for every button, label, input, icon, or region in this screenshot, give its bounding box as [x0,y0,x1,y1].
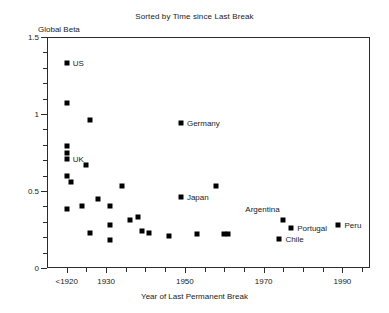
x-tick-mark [362,268,363,272]
data-point[interactable] [178,195,183,200]
data-point[interactable] [108,238,113,243]
data-point[interactable] [64,207,69,212]
chart-title: Sorted by Time since Last Break [0,12,389,21]
data-point[interactable] [68,179,73,184]
y-tick-label: 1 [35,110,39,119]
x-tick-mark [185,268,186,273]
data-point-label: Portugal [297,223,327,232]
y-tick-mark [43,129,47,130]
y-tick-mark [43,222,47,223]
data-point[interactable] [336,222,341,227]
y-tick-mark [43,176,47,177]
data-point-label: UK [73,154,84,163]
y-tick-mark [43,145,47,146]
data-point-label: Chile [285,234,303,243]
x-tick-mark [323,268,324,272]
x-tick-mark [126,268,127,272]
data-point[interactable] [281,218,286,223]
x-tick-mark [342,268,343,273]
x-tick-label: 1970 [255,277,273,286]
y-axis-label: Global Beta [38,25,80,34]
x-tick-label: 1930 [97,277,115,286]
y-tick-mark [43,253,47,254]
y-tick-mark [43,68,47,69]
y-tick-mark [43,99,47,100]
data-point[interactable] [64,150,69,155]
x-tick-mark [165,268,166,272]
data-point[interactable] [88,230,93,235]
data-point[interactable] [178,121,183,126]
data-point[interactable] [135,215,140,220]
data-point[interactable] [139,229,144,234]
data-point[interactable] [277,236,282,241]
data-point-label: Peru [344,220,361,229]
data-point[interactable] [84,162,89,167]
y-tick-mark [43,160,47,161]
data-point[interactable] [64,101,69,106]
data-point-label: US [73,59,84,68]
x-tick-mark [145,268,146,272]
data-point[interactable] [167,233,172,238]
x-axis-ticks: <19201930195019701990 [47,268,370,292]
x-tick-mark [106,268,107,273]
data-point[interactable] [64,173,69,178]
data-point[interactable] [119,184,124,189]
data-point-label: Germany [187,119,220,128]
x-tick-mark [303,268,304,272]
y-tick-label: 0 [35,264,39,273]
x-tick-label: 1950 [176,277,194,286]
data-point[interactable] [96,196,101,201]
data-point[interactable] [194,232,199,237]
data-point[interactable] [64,61,69,66]
plot-area: 00.511.5 USGermanyUKJapanArgentinaPeruPo… [47,37,370,268]
y-tick-mark [43,237,47,238]
data-point-label: Argentina [245,205,279,214]
y-tick-mark [41,191,47,192]
x-tick-label: 1990 [334,277,352,286]
data-point[interactable] [108,222,113,227]
x-axis-label: Year of Last Permanent Break [0,292,389,301]
x-tick-mark [67,268,68,273]
x-tick-mark [283,268,284,272]
data-point[interactable] [88,118,93,123]
x-tick-mark [264,268,265,273]
x-tick-label: <1920 [55,277,77,286]
x-tick-mark [86,268,87,272]
x-tick-mark [224,268,225,272]
x-tick-mark [244,268,245,272]
x-tick-mark [205,268,206,272]
data-point[interactable] [147,230,152,235]
chart-page: Sorted by Time since Last Break Global B… [0,0,389,313]
data-point[interactable] [127,218,132,223]
y-tick-mark [41,37,47,38]
y-tick-label: 1.5 [28,33,39,42]
y-tick-mark [43,206,47,207]
data-point[interactable] [289,225,294,230]
y-tick-mark [43,52,47,53]
data-point[interactable] [226,232,231,237]
y-tick-mark [41,114,47,115]
data-point-label: Japan [187,193,209,202]
data-point[interactable] [108,204,113,209]
y-tick-label: 0.5 [28,187,39,196]
data-point[interactable] [80,204,85,209]
data-point[interactable] [64,156,69,161]
y-tick-mark [43,83,47,84]
data-point[interactable] [214,184,219,189]
data-point[interactable] [64,144,69,149]
